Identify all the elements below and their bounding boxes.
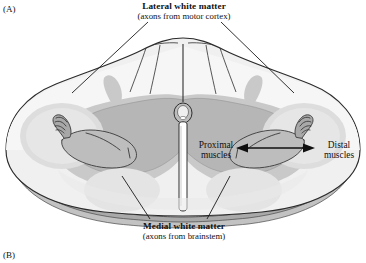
label-medial-white-matter: Medial white matter (axons from brainste… bbox=[104, 222, 264, 241]
panel-b-label: (B) bbox=[3, 250, 15, 260]
panel-a-label: (A) bbox=[3, 4, 16, 14]
figure-panel-a: (A) (B) Lateral white matter (axons from… bbox=[0, 0, 366, 263]
label-medial-white-matter-subtitle: (axons from brainstem) bbox=[104, 232, 264, 242]
central-canal bbox=[174, 103, 192, 123]
label-proximal-muscles: Proximal muscles bbox=[188, 140, 244, 161]
label-lateral-white-matter-subtitle: (axons from motor cortex) bbox=[104, 12, 264, 22]
label-distal-muscles-line1: Distal bbox=[328, 140, 350, 150]
label-distal-muscles: Distal muscles bbox=[315, 140, 363, 161]
anterior-median-fissure bbox=[179, 122, 187, 211]
label-proximal-muscles-line1: Proximal bbox=[199, 140, 233, 150]
label-lateral-white-matter: Lateral white matter (axons from motor c… bbox=[104, 2, 264, 21]
label-proximal-muscles-line2: muscles bbox=[201, 150, 231, 160]
label-distal-muscles-line2: muscles bbox=[324, 150, 354, 160]
